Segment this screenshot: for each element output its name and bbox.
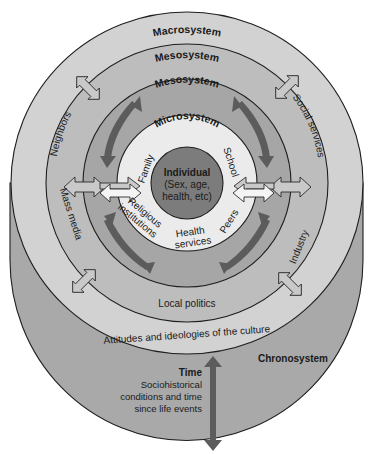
time-title: Time — [179, 367, 203, 378]
individual-line1: (Sex, age, — [164, 179, 210, 190]
time-line2: conditions and time — [120, 391, 202, 402]
chronosystem-label: Chronosystem — [258, 353, 328, 364]
individual-title: Individual — [164, 167, 211, 178]
time-line1: Sociohistorical — [141, 379, 202, 390]
individual-line2: health, etc) — [162, 191, 211, 202]
time-line3: since life events — [134, 403, 202, 414]
exosystem-item-local-politics: Local politics — [158, 298, 215, 309]
ecological-systems-diagram: Macrosystem Mesosystem Mesosystem Micros… — [0, 0, 375, 454]
